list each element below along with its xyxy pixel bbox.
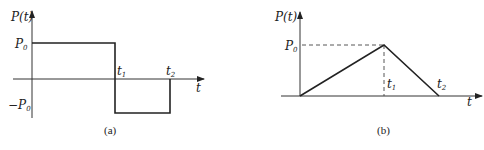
figure: P(t) P0 −P0 t1 t2 t (a) P(t) P0 t1 t2 t … xyxy=(0,0,484,150)
x-axis-label-a: t xyxy=(196,81,201,95)
caption-b: (b) xyxy=(377,124,390,137)
pulse-curve-b xyxy=(300,45,439,96)
neg-p0-label-a: −P0 xyxy=(8,98,31,113)
y-axis-label-b: P(t) xyxy=(274,10,298,24)
t1-label-b: t1 xyxy=(387,77,396,92)
diagram-b: P(t) P0 t1 t2 t (b) xyxy=(274,10,482,137)
y-axis-label-a: P(t) xyxy=(10,10,34,24)
pulse-curve-a xyxy=(32,43,170,113)
caption-a: (a) xyxy=(104,124,117,137)
t2-label-a: t2 xyxy=(166,64,176,79)
p0-label-a: P0 xyxy=(14,37,28,52)
t2-label-b: t2 xyxy=(437,77,447,92)
t1-label-a: t1 xyxy=(117,64,126,79)
diagram-a: P(t) P0 −P0 t1 t2 t (a) xyxy=(8,10,204,137)
p0-label-b: P0 xyxy=(284,39,298,54)
x-axis-label-b: t xyxy=(467,95,472,109)
